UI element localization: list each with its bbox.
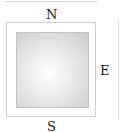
- east-label: E: [100, 64, 110, 77]
- top-divider-line: [5, 0, 97, 2]
- right-divider-line: [118, 20, 119, 120]
- north-label: N: [46, 8, 57, 21]
- inner-gradient-square: [16, 32, 89, 108]
- south-label: S: [47, 120, 56, 132]
